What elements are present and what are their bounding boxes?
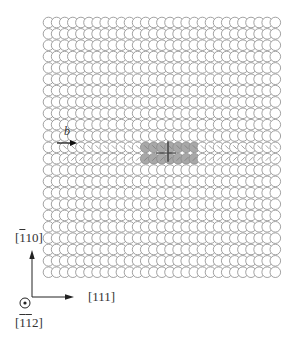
- out-of-plane-dot-icon: [23, 301, 26, 304]
- atom-circle: [270, 17, 281, 28]
- atom-circle: [270, 63, 281, 74]
- atom-circle: [270, 29, 281, 40]
- atom-circle: [270, 108, 281, 119]
- atom-circle: [270, 119, 281, 130]
- crystal-lattice-diagram: [0, 0, 295, 342]
- atom-circle: [270, 187, 281, 198]
- atom-circle: [270, 256, 281, 267]
- atom-circle: [270, 40, 281, 51]
- atom-circle: [270, 165, 281, 176]
- label-rest: 2: [32, 315, 39, 330]
- axis-label-vertical: [110]: [15, 231, 43, 244]
- axis-label-out-of-plane: [112]: [15, 316, 43, 329]
- axis-label-horizontal: [111]: [88, 290, 115, 303]
- atom-circle: [270, 233, 281, 244]
- atom-circle: [270, 51, 281, 62]
- atom-lattice: [43, 17, 280, 277]
- label-rest: 10: [25, 230, 38, 245]
- arrow-right-icon: [65, 294, 74, 299]
- atom-circle: [270, 222, 281, 233]
- atom-circle: [270, 244, 281, 255]
- atom-circle: [270, 176, 281, 187]
- atom-circle: [270, 142, 281, 153]
- atom-circle: [270, 267, 281, 278]
- atom-circle: [270, 97, 281, 108]
- arrow-up-icon: [29, 250, 34, 259]
- burgers-vector-label: b: [64, 125, 70, 137]
- atom-circle: [270, 85, 281, 96]
- atom-circle: [270, 131, 281, 142]
- atom-circle: [270, 153, 281, 164]
- atom-circle: [270, 199, 281, 210]
- atom-circle: [270, 210, 281, 221]
- atom-circle: [270, 74, 281, 85]
